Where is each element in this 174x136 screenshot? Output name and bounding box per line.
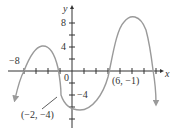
x-axis: x −8 0 bbox=[8, 55, 170, 83]
x-tick-label-neg8: −8 bbox=[9, 55, 20, 66]
annotation-label-neg2-neg4: (−2, −4) bbox=[21, 109, 54, 121]
origin-label: 0 bbox=[64, 72, 69, 83]
x-axis-label: x bbox=[164, 68, 170, 79]
y-tick-label-4: 4 bbox=[61, 41, 66, 52]
y-tick-label-8: 8 bbox=[61, 17, 66, 28]
annotation-label-6-neg1: (6, −1) bbox=[112, 75, 139, 87]
function-graph: x −8 0 y 8 4 −4 (−2, −4) (6, −1) bbox=[0, 0, 174, 136]
y-tick-label-neg4: −4 bbox=[77, 89, 88, 100]
y-axis-label: y bbox=[62, 3, 68, 14]
annotation-point-6-neg1: (6, −1) bbox=[112, 75, 139, 87]
annotation-point-neg2-neg4: (−2, −4) bbox=[21, 97, 57, 121]
